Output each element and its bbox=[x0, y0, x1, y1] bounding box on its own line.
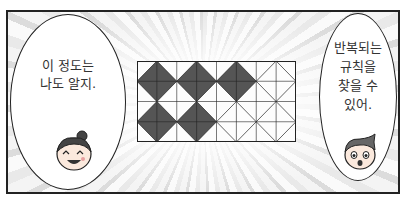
speech-line: 규칙을 bbox=[320, 57, 396, 76]
boy-face-icon bbox=[340, 132, 380, 172]
speech-line: 찾을 수 bbox=[320, 76, 396, 95]
speech-text-right: 반복되는 규칙을 찾을 수 있어. bbox=[320, 38, 396, 114]
speech-line: 이 정도는 bbox=[11, 57, 125, 75]
speech-text-left: 이 정도는 나도 알지. bbox=[11, 57, 125, 93]
diamond-pattern-grid bbox=[137, 61, 296, 142]
speech-line: 있어. bbox=[320, 95, 396, 114]
speech-line: 나도 알지. bbox=[11, 75, 125, 93]
speech-line: 반복되는 bbox=[320, 38, 396, 57]
girl-face-icon bbox=[52, 130, 96, 174]
